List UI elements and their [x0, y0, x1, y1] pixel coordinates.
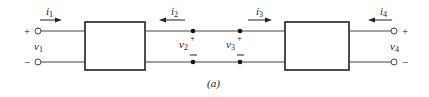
current-label-i4: i4 — [380, 5, 387, 19]
voltage-label-v1: v1 — [34, 40, 43, 54]
polarity-plus-v2: + — [190, 33, 195, 43]
terminal-left-bottom — [35, 59, 41, 65]
node-dot-3-bottom — [238, 60, 243, 65]
two-port-cascade-diagram: i1 i2 i3 i4 + v1 − + v2 + v3 + v4 − (a) — [0, 0, 429, 97]
polarity-plus-v3: + — [237, 33, 242, 43]
figure-caption: (a) — [207, 77, 220, 90]
terminal-right-bottom — [391, 59, 397, 65]
node-dot-2-bottom — [191, 60, 196, 65]
polarity-plus-left: + — [24, 25, 30, 37]
arrow-left-icon — [159, 18, 185, 23]
current-label-i2: i2 — [171, 5, 178, 19]
terminal-left-top — [35, 28, 41, 34]
two-port-network-left — [85, 22, 145, 70]
polarity-minus-left: − — [24, 56, 30, 68]
current-label-i1: i1 — [46, 5, 53, 19]
arrow-left-icon — [368, 18, 392, 23]
terminal-right-top — [391, 28, 397, 34]
polarity-minus-right: − — [402, 56, 408, 68]
polarity-plus-right: + — [402, 25, 408, 37]
voltage-label-v2: v2 — [179, 38, 188, 52]
current-label-i3: i3 — [256, 5, 263, 19]
voltage-label-v4: v4 — [390, 40, 399, 54]
two-port-network-right — [285, 22, 349, 70]
voltage-label-v3: v3 — [226, 38, 235, 52]
